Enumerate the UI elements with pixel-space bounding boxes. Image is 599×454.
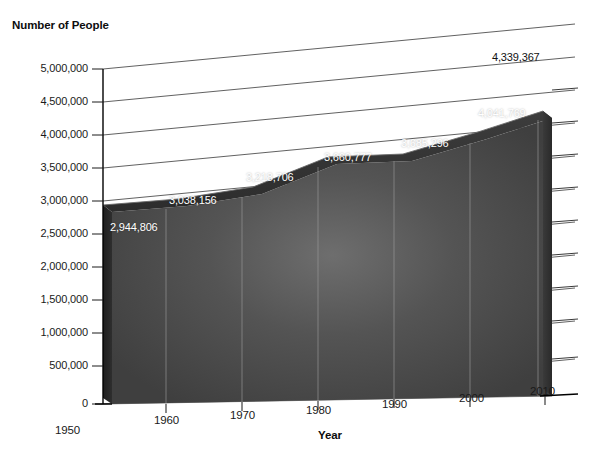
y-axis-ticks xyxy=(92,69,103,404)
area-chart: Number of People Year 5,000,000 4,500,00… xyxy=(0,0,599,454)
data-label: 2,944,806 xyxy=(110,221,158,233)
data-label: 3,660,777 xyxy=(324,151,372,163)
data-label: 4,041,769 xyxy=(478,107,526,119)
chart-canvas xyxy=(0,0,599,454)
y-tick-label: 0 xyxy=(18,397,88,409)
y-tick-label: 4,500,000 xyxy=(18,95,88,107)
x-tick-label: 1960 xyxy=(154,414,179,426)
area-left-face xyxy=(103,205,112,404)
y-axis-title: Number of People xyxy=(12,19,109,31)
data-label: 4,339,367 xyxy=(492,51,540,63)
y-tick-label: 3,500,000 xyxy=(18,161,88,173)
y-tick-label: 2,000,000 xyxy=(18,260,88,272)
y-tick-label: 5,000,000 xyxy=(18,62,88,74)
x-tick-label: 2010 xyxy=(530,385,555,397)
y-tick-label: 3,000,000 xyxy=(18,194,88,206)
y-tick-label: 1,000,000 xyxy=(18,326,88,338)
y-tick-label: 2,500,000 xyxy=(18,227,88,239)
x-tick-label: 1980 xyxy=(306,404,331,416)
x-tick-label: 1950 xyxy=(55,424,80,436)
data-label: 3,038,156 xyxy=(169,194,217,206)
x-tick-label: 1990 xyxy=(382,398,407,410)
x-axis-title: Year xyxy=(318,429,342,441)
y-tick-label: 4,000,000 xyxy=(18,128,88,140)
x-tick-label: 1970 xyxy=(230,409,255,421)
y-tick-label: 1,500,000 xyxy=(18,293,88,305)
y-tick-label: 500,000 xyxy=(18,359,88,371)
x-tick-label: 2000 xyxy=(459,392,484,404)
data-label: 3,685,296 xyxy=(401,137,449,149)
area-right-face xyxy=(543,111,552,396)
data-label: 3,218,706 xyxy=(246,171,294,183)
